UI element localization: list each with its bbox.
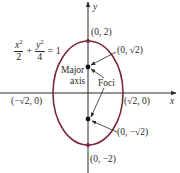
bottom-vertex-point — [86, 143, 90, 147]
foci-leader-down — [91, 88, 104, 117]
equation-term-x: x2 2 — [14, 39, 23, 62]
bottom-focus-label: (0, −√2) — [117, 128, 148, 138]
ellipse-plot — [0, 0, 180, 173]
top-focus-label: (0, √2) — [117, 46, 143, 56]
major-axis-label-line1: Major — [61, 66, 84, 76]
ellipse-diagram: x2 2 + y2 4 = 1 y x (0, 2) (0, √2) (−√2,… — [0, 0, 180, 173]
major-axis-label-line2: axis — [70, 77, 85, 87]
bottom-focus-leader — [92, 121, 117, 132]
foci-leader-up — [91, 69, 104, 78]
x-axis-label: x — [170, 97, 174, 107]
top-vertex-point — [86, 39, 90, 43]
equation-term-y: y2 4 — [35, 39, 44, 62]
bottom-focus-point — [86, 117, 91, 122]
y-axis-label: y — [93, 3, 97, 13]
bottom-vertex-label: (0, −2) — [90, 155, 116, 165]
top-vertex-label: (0, 2) — [91, 28, 112, 38]
foci-label: Foci — [98, 79, 115, 89]
ellipse-equation: x2 2 + y2 4 = 1 — [13, 39, 63, 62]
top-focus-point — [86, 65, 91, 70]
right-covertex-label: (√2, 0) — [124, 97, 150, 107]
top-focus-leader — [91, 52, 116, 65]
left-covertex-label: (−√2, 0) — [11, 97, 42, 107]
